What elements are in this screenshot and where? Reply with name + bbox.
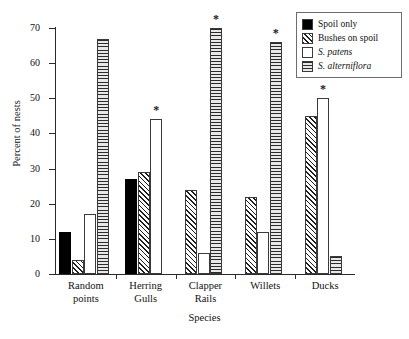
- bar: [59, 232, 71, 274]
- x-tick-separator-2: [176, 274, 177, 279]
- x-axis-label-group-4: Ducks: [285, 280, 365, 293]
- bar: [305, 116, 317, 274]
- significance-asterisk: *: [270, 28, 282, 38]
- legend-swatch-empty: [302, 47, 313, 58]
- legend-item: Bushes on spoil: [302, 31, 397, 45]
- bar: [185, 190, 197, 274]
- legend: Spoil onlyBushes on spoilS. patensS. alt…: [296, 12, 402, 78]
- x-axis-label-line: Rails: [166, 293, 246, 306]
- significance-asterisk: *: [150, 105, 162, 115]
- y-axis-title: Percent of nests: [11, 74, 22, 194]
- y-tick-70: [49, 28, 55, 29]
- y-tick-label-0: 0: [0, 269, 44, 279]
- legend-item: S. alterniflora: [302, 59, 397, 73]
- bar: [245, 197, 257, 274]
- significance-asterisk: *: [317, 84, 329, 94]
- y-tick-50: [49, 98, 55, 99]
- y-tick-10: [49, 239, 55, 240]
- y-tick-label-10: 10: [0, 234, 44, 244]
- bar: [72, 260, 84, 274]
- y-tick-40: [49, 133, 55, 134]
- bar: [97, 39, 109, 274]
- bar: [270, 42, 282, 274]
- x-tick-separator-3: [235, 274, 236, 279]
- y-tick-label-30: 30: [0, 164, 44, 174]
- bar: [198, 253, 210, 274]
- bar: [84, 214, 96, 274]
- x-axis-title: Species: [0, 312, 409, 323]
- y-tick-0: [49, 274, 55, 275]
- legend-label: S. alterniflora: [318, 61, 371, 72]
- legend-swatch-hlines: [302, 61, 313, 72]
- y-tick-label-20: 20: [0, 199, 44, 209]
- significance-asterisk: *: [210, 14, 222, 24]
- bar: [330, 256, 342, 274]
- bar: [125, 179, 137, 274]
- legend-label: Spoil only: [318, 19, 357, 30]
- bar-chart: 010203040506070 **** RandompointsHerring…: [0, 0, 409, 339]
- bar: [150, 119, 162, 274]
- x-tick-separator-1: [116, 274, 117, 279]
- y-tick-label-50: 50: [0, 93, 44, 103]
- y-tick-label-70: 70: [0, 23, 44, 33]
- x-axis-label-line: Ducks: [285, 280, 365, 293]
- y-tick-60: [49, 63, 55, 64]
- legend-swatch-solid: [302, 19, 313, 30]
- legend-label: Bushes on spoil: [318, 33, 378, 44]
- legend-item: Spoil only: [302, 17, 397, 31]
- bar: [138, 172, 150, 274]
- legend-label: S. patens: [318, 47, 352, 58]
- x-axis-line: [55, 274, 355, 275]
- bar: [257, 232, 269, 274]
- y-tick-label-40: 40: [0, 128, 44, 138]
- x-tick-separator-4: [295, 274, 296, 279]
- bar: [210, 28, 222, 274]
- legend-item: S. patens: [302, 45, 397, 59]
- y-tick-label-60: 60: [0, 58, 44, 68]
- bar: [317, 98, 329, 274]
- y-tick-30: [49, 169, 55, 170]
- legend-swatch-hatch: [302, 33, 313, 44]
- y-tick-20: [49, 204, 55, 205]
